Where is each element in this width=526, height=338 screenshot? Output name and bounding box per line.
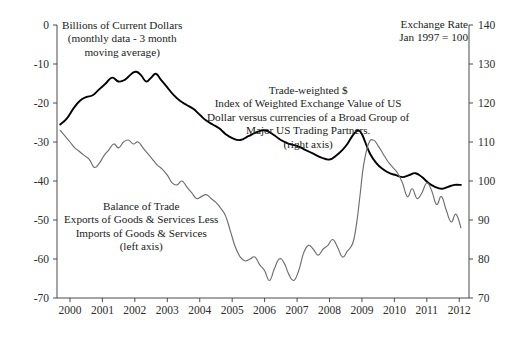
left-axis-tick-label: -40	[34, 175, 50, 187]
x-axis-tick-label: 2000	[58, 304, 81, 316]
left-axis-tick-label: -70	[34, 292, 50, 304]
left-axis-tick-label: -50	[34, 214, 50, 226]
x-axis-tick-label: 2001	[91, 304, 114, 316]
x-axis-tick-label: 2011	[416, 304, 439, 316]
left-axis-tick-label: -10	[34, 58, 50, 70]
right-axis-tick-label: 110	[478, 136, 495, 148]
x-axis-tick-label: 2004	[188, 304, 211, 316]
x-axis-tick-label: 2005	[221, 304, 244, 316]
annotation-exchange-series-label: Trade-weighted $ Index of Weighted Excha…	[207, 84, 409, 151]
left-axis-tick-label: -60	[34, 253, 50, 265]
right-axis-tick-label: 90	[478, 214, 490, 226]
annotation-right-axis-header: Exchange Rate Jan 1997 = 100	[399, 18, 468, 45]
x-axis-tick-label: 2007	[286, 304, 309, 316]
x-axis-tick-label: 2003	[156, 304, 179, 316]
right-axis-tick-label: 100	[478, 175, 496, 187]
right-axis-tick-label: 70	[478, 292, 490, 304]
right-axis-tick-label: 120	[478, 97, 496, 109]
annotation-units-note: Billions of Current Dollars (monthly dat…	[62, 19, 182, 59]
left-axis-tick-label: -20	[34, 97, 50, 109]
chart-container: 0-10-20-30-40-50-60-70140130120110100908…	[0, 0, 526, 338]
x-axis-tick-label: 2002	[123, 304, 146, 316]
x-axis-tick-label: 2008	[318, 304, 341, 316]
right-axis-tick-label: 140	[478, 19, 496, 31]
x-axis-tick-label: 2009	[350, 304, 373, 316]
left-axis-tick-label: -30	[34, 136, 50, 148]
x-axis-tick-label: 2010	[383, 304, 406, 316]
left-axis-tick-label: 0	[43, 19, 49, 31]
x-axis-tick-label: 2012	[448, 304, 471, 316]
x-axis-tick-label: 2006	[253, 304, 276, 316]
right-axis-tick-label: 80	[478, 253, 490, 265]
right-axis-tick-label: 130	[478, 58, 496, 70]
annotation-balance-series-label: Balance of Trade Exports of Goods & Serv…	[64, 200, 218, 254]
